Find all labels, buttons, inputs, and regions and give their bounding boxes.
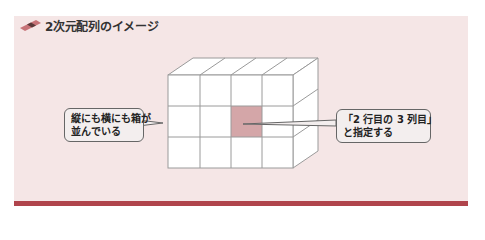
callout-left-line2: 並んでいる xyxy=(71,125,137,138)
callout-left-line1: 縦にも横にも箱が xyxy=(71,112,137,125)
callout-left: 縦にも横にも箱が 並んでいる xyxy=(64,108,144,142)
callout-right-line2: と指定する xyxy=(343,126,424,139)
highlighted-cell xyxy=(231,106,262,137)
callout-right-line1: 「2 行目の 3 列目」 xyxy=(343,113,424,126)
callout-right: 「2 行目の 3 列目」 と指定する xyxy=(336,109,431,143)
